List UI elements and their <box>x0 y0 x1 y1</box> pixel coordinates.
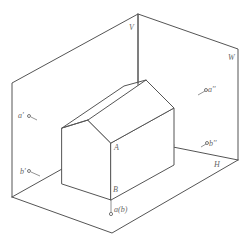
label-a-b: a(b) <box>114 205 128 214</box>
house-solid <box>62 14 174 200</box>
leader-a-double-prime <box>198 91 205 95</box>
leader-b-double-prime <box>201 144 206 147</box>
point-b-prime <box>28 170 31 173</box>
label-w-plane: W <box>228 53 236 62</box>
label-a: A <box>113 143 119 152</box>
label-v-plane: V <box>129 23 135 32</box>
projection-diagram: V W H A B a(b) a' b' a'' b'' <box>0 0 248 237</box>
label-h-plane: H <box>213 160 221 169</box>
label-b-double-prime: b'' <box>209 139 217 148</box>
leader-b-prime <box>31 172 40 176</box>
label-b-prime: b' <box>20 167 26 176</box>
label-a-prime: a' <box>18 111 24 120</box>
leader-a-prime <box>31 117 37 120</box>
point-ab <box>109 212 112 215</box>
label-b: B <box>113 185 118 194</box>
label-a-double-prime: a'' <box>208 85 216 94</box>
point-a-prime <box>28 115 31 118</box>
